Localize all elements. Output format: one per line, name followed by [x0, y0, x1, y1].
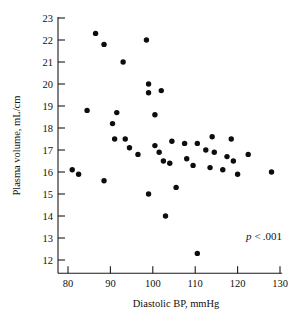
data-point: [246, 152, 251, 157]
data-point: [146, 90, 151, 95]
data-point: [220, 167, 225, 172]
scatter-plot-figure: 121314151617181920212223 809010011012013…: [0, 0, 298, 321]
data-point: [184, 156, 189, 161]
data-point: [144, 37, 149, 42]
significance-annotation: p<.001: [245, 230, 282, 242]
data-point: [93, 31, 98, 36]
data-point: [161, 158, 166, 163]
data-point: [114, 110, 119, 115]
data-point: [173, 185, 178, 190]
data-point: [152, 112, 157, 117]
x-tick-label-90: 90: [105, 278, 116, 289]
x-axis-title: Diastolic BP, mmHg: [133, 298, 220, 309]
data-point: [76, 172, 81, 177]
y-tick-label-20: 20: [43, 79, 54, 90]
data-point: [167, 161, 172, 166]
data-point: [135, 152, 140, 157]
data-points-layer: [70, 31, 275, 256]
data-point: [212, 150, 217, 155]
data-point: [203, 147, 208, 152]
y-tick-label-12: 12: [43, 255, 54, 266]
data-point: [159, 88, 164, 93]
data-point: [112, 136, 117, 141]
x-tick-label-120: 120: [230, 278, 246, 289]
x-tick-label-100: 100: [145, 278, 161, 289]
x-tick-label-80: 80: [63, 278, 74, 289]
data-point: [110, 121, 115, 126]
x-tick-label-110: 110: [188, 278, 203, 289]
data-point: [101, 42, 106, 47]
data-point: [70, 167, 75, 172]
y-tick-label-23: 23: [43, 13, 54, 24]
data-point: [156, 150, 161, 155]
y-tick-label-19: 19: [43, 101, 54, 112]
data-point: [182, 141, 187, 146]
y-tick-label-18: 18: [43, 123, 54, 134]
p-value: .001: [263, 230, 282, 242]
data-point: [152, 143, 157, 148]
data-point: [209, 134, 214, 139]
p-value-annotation: p<.001: [245, 230, 282, 242]
data-point: [146, 191, 151, 196]
data-point: [195, 141, 200, 146]
data-point: [231, 158, 236, 163]
y-axis: 121314151617181920212223: [43, 13, 66, 274]
data-point: [195, 251, 200, 256]
y-axis-title: Plasma volume, mL/cm: [11, 96, 22, 196]
y-tick-label-15: 15: [43, 189, 54, 200]
data-point: [163, 213, 168, 218]
y-tick-label-16: 16: [43, 167, 54, 178]
y-tick-label-14: 14: [43, 211, 54, 222]
plot-canvas: 121314151617181920212223 809010011012013…: [0, 0, 298, 321]
x-tick-label-130: 130: [272, 278, 288, 289]
y-tick-label-13: 13: [43, 233, 54, 244]
data-point: [84, 108, 89, 113]
data-point: [123, 136, 128, 141]
data-point: [120, 59, 125, 64]
data-point: [127, 145, 132, 150]
data-point: [229, 136, 234, 141]
data-point: [190, 163, 195, 168]
x-axis: 8090100110120130: [58, 266, 288, 289]
data-point: [269, 169, 274, 174]
relation-symbol: <: [255, 230, 261, 242]
data-point: [207, 165, 212, 170]
y-tick-label-17: 17: [43, 145, 54, 156]
data-point: [224, 154, 229, 159]
data-point: [101, 178, 106, 183]
y-tick-label-21: 21: [43, 57, 54, 68]
data-point: [146, 81, 151, 86]
p-symbol: p: [245, 230, 252, 242]
y-tick-label-22: 22: [43, 35, 54, 46]
data-point: [169, 139, 174, 144]
data-point: [235, 172, 240, 177]
